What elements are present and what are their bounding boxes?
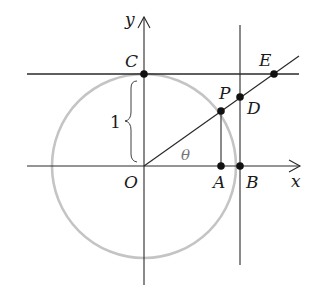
label-B: B — [245, 172, 259, 192]
label-P: P — [218, 83, 231, 103]
y-axis-label: y — [124, 9, 135, 29]
label-C: C — [125, 51, 138, 71]
label-O: O — [124, 172, 138, 192]
unit-circle-diagram: 1 y x C E P D O A B θ — [0, 0, 322, 293]
label-A: A — [211, 172, 225, 192]
point-P — [217, 107, 225, 115]
point-D — [236, 93, 244, 101]
radius-label: 1 — [110, 112, 121, 132]
point-C — [140, 70, 148, 78]
angle-theta-label: θ — [181, 146, 190, 164]
x-axis-label: x — [291, 171, 301, 191]
point-B — [236, 162, 244, 170]
label-E: E — [258, 50, 272, 70]
point-E — [270, 70, 278, 78]
radius-brace — [125, 81, 137, 162]
point-A — [217, 162, 225, 170]
label-D: D — [246, 98, 261, 118]
